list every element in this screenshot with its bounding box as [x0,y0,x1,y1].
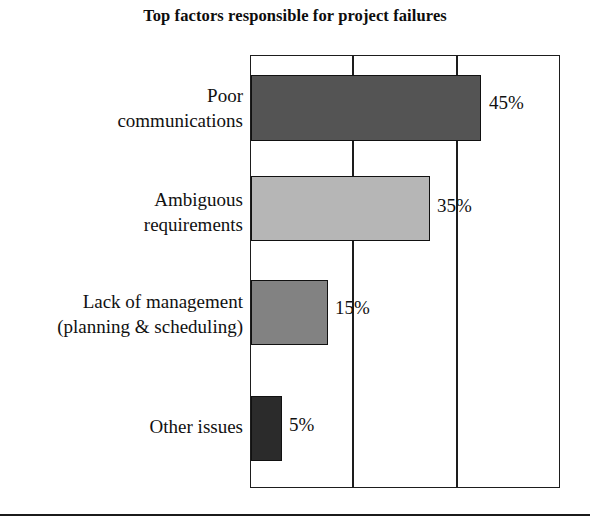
bar-other-issues [251,396,282,461]
value-label-ambiguous-requirements: 35% [437,195,472,217]
bar-poor-communications [251,75,481,141]
category-label-poor-communications: Poor communications [0,83,243,133]
category-label-other-issues: Other issues [0,414,243,439]
value-label-other-issues: 5% [289,414,314,436]
value-label-lack-of-management: 15% [335,297,370,319]
chart-figure: Top factors responsible for project fail… [0,0,590,523]
category-label-lack-of-management: Lack of management (planning & schedulin… [0,289,243,339]
value-label-poor-communications: 45% [489,92,524,114]
bar-ambiguous-requirements [251,176,430,241]
chart-title: Top factors responsible for project fail… [0,6,590,26]
footer-divider [0,514,590,516]
category-label-ambiguous-requirements: Ambiguous requirements [0,187,243,237]
bar-lack-of-management [251,280,328,345]
